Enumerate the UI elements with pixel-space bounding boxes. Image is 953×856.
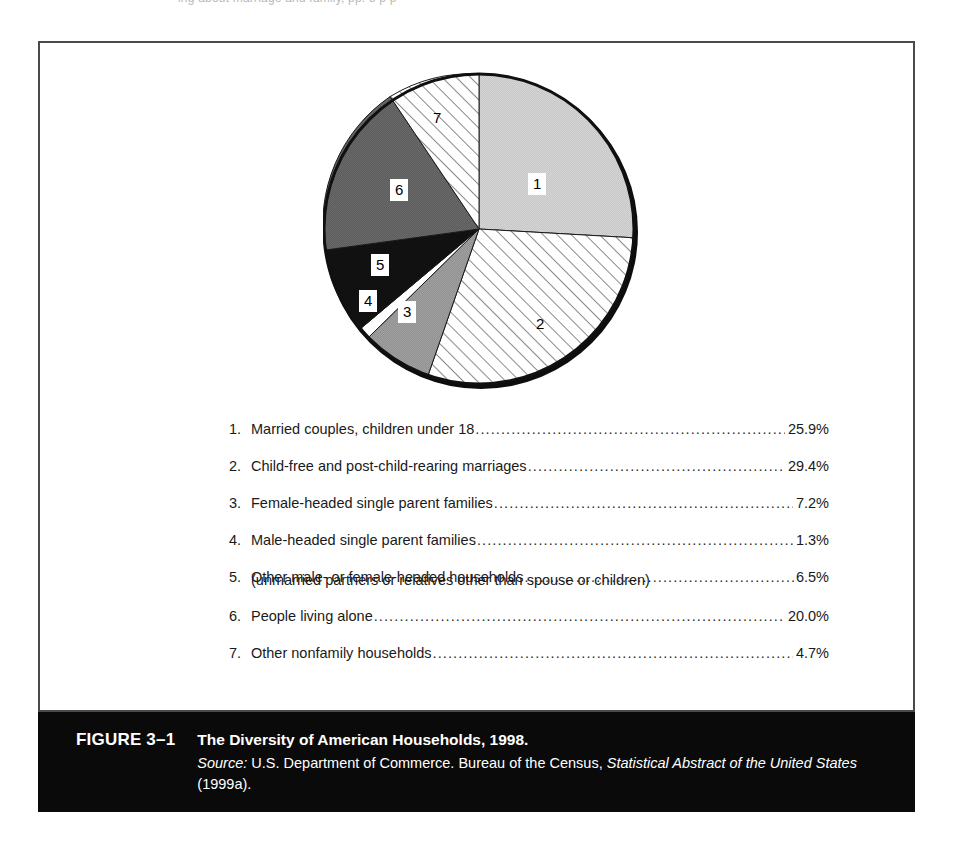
legend-item-3-number: 3. (229, 495, 251, 511)
source-body-2: (1999a). (197, 776, 251, 792)
legend-item-5-value: 6.5% (794, 569, 829, 585)
pie-label-2: 2 (536, 316, 544, 331)
legend-item-6-dots: ........................................… (374, 608, 785, 624)
legend-item-7-dots: ........................................… (433, 645, 793, 661)
legend-item-1: 1. Married couples, children under 18 ..… (229, 421, 829, 437)
pie-slice-1 (479, 74, 634, 238)
source-label: Source: (197, 755, 247, 771)
legend-item-3-label: Female-headed single parent families (251, 495, 493, 511)
legend-item-3-value: 7.2% (794, 495, 829, 511)
legend-item-2-value: 29.4% (786, 458, 829, 474)
page-header-ghost-text: ing about marriage and family, pp. 5 p p (0, 0, 953, 12)
legend-item-2: 2. Child-free and post-child-rearing mar… (229, 458, 829, 474)
figure-source: Source: U.S. Department of Commerce. Bur… (197, 753, 899, 795)
pie-chart-svg (323, 72, 643, 397)
legend-item-1-number: 1. (229, 421, 251, 437)
figure-frame: 1 2 3 4 5 6 7 1. Married couples, childr… (38, 41, 915, 712)
legend-item-2-number: 2. (229, 458, 251, 474)
figure-title: The Diversity of American Households, 19… (197, 730, 899, 749)
legend-item-7-value: 4.7% (794, 645, 829, 661)
source-body-1: U.S. Department of Commerce. Bureau of t… (251, 755, 602, 771)
legend-item-4: 4. Male-headed single parent families ..… (229, 532, 829, 548)
figure-legend: 1. Married couples, children under 18 ..… (229, 421, 829, 682)
source-italic-title-2: the United States (746, 755, 857, 771)
legend-item-3-dots: ........................................… (494, 495, 793, 511)
legend-item-4-dots: ........................................… (477, 532, 793, 548)
legend-item-6-number: 6. (229, 608, 251, 624)
pie-label-4: 4 (359, 290, 377, 312)
pie-label-6: 6 (390, 179, 408, 201)
legend-item-6-label: People living alone (251, 608, 373, 624)
pie-label-1: 1 (528, 173, 546, 195)
source-italic-title-1: Statistical Abstract of (607, 755, 742, 771)
legend-item-6: 6. People living alone .................… (229, 608, 829, 624)
figure-caption-bar: FIGURE 3–1 The Diversity of American Hou… (38, 712, 915, 812)
ghost-header-text: ing about marriage and family, pp. 5 p p (178, 0, 397, 5)
pie-chart: 1 2 3 4 5 6 7 (323, 72, 643, 397)
pie-label-7: 7 (433, 110, 441, 125)
legend-item-7-label: Other nonfamily households (251, 645, 432, 661)
legend-item-1-value: 25.9% (786, 421, 829, 437)
legend-item-4-label: Male-headed single parent families (251, 532, 476, 548)
legend-item-2-dots: ........................................… (528, 458, 785, 474)
legend-item-2-label: Child-free and post-child-rearing marria… (251, 458, 527, 474)
legend-item-3: 3. Female-headed single parent families … (229, 495, 829, 511)
legend-item-5-number: 5. (229, 569, 251, 585)
legend-item-7: 7. Other nonfamily households ..........… (229, 645, 829, 661)
figure-number: FIGURE 3–1 (76, 730, 175, 750)
legend-item-1-dots: ........................................… (475, 421, 785, 437)
legend-item-4-value: 1.3% (794, 532, 829, 548)
legend-item-6-value: 20.0% (786, 608, 829, 624)
pie-label-5: 5 (371, 254, 389, 276)
legend-item-4-number: 4. (229, 532, 251, 548)
legend-item-7-number: 7. (229, 645, 251, 661)
legend-item-1-label: Married couples, children under 18 (251, 421, 474, 437)
pie-label-3: 3 (398, 301, 416, 323)
